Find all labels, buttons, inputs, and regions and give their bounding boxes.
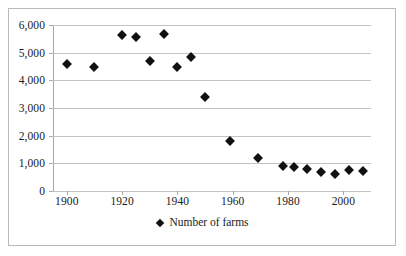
gridline [53,80,371,81]
data-point [90,62,100,72]
gridline [53,191,371,192]
y-tick-label-4000: 4,000 [19,75,45,87]
data-point [131,32,141,42]
y-tick-mark [49,53,53,54]
data-point [117,30,127,40]
y-tick-mark [49,25,53,26]
data-point [159,29,169,39]
chart-frame: 01,0002,0003,0004,0005,0006,000 19001920… [8,8,396,246]
y-tick-mark [49,163,53,164]
x-tick-label-1920: 1920 [110,196,133,208]
y-tick-mark [49,108,53,109]
gridline [53,25,371,26]
y-tick-label-3000: 3,000 [19,103,45,115]
gridline [53,53,371,54]
legend-diamond-icon [156,219,164,227]
chart-legend: Number of farms [9,217,397,229]
data-point [344,165,354,175]
y-tick-label-6000: 6,000 [19,20,45,32]
x-tick-label-1980: 1980 [276,196,299,208]
data-point [225,137,235,147]
y-tick-label-5000: 5,000 [19,48,45,60]
data-point [358,166,368,176]
data-point [62,59,72,69]
y-tick-label-0: 0 [39,186,45,198]
data-point [145,56,155,66]
data-point [200,92,210,102]
y-tick-mark [49,136,53,137]
y-tick-mark [49,191,53,192]
gridline [53,136,371,137]
data-point [172,62,182,72]
x-axis-tick-labels: 190019201940196019802000 [53,193,371,209]
data-point [316,168,326,178]
y-tick-label-2000: 2,000 [19,131,45,143]
legend-label-number-of-farms: Number of farms [169,217,248,229]
x-tick-label-1940: 1940 [166,196,189,208]
gridline [53,163,371,164]
y-axis-tick-labels: 01,0002,0003,0004,0005,0006,000 [1,25,45,191]
y-tick-label-1000: 1,000 [19,158,45,170]
plot-area [53,25,371,191]
data-point [302,164,312,174]
data-point [253,153,263,163]
data-point [330,169,340,179]
y-tick-mark [49,80,53,81]
gridline [53,108,371,109]
x-tick-label-2000: 2000 [332,196,355,208]
x-tick-label-1960: 1960 [221,196,244,208]
x-tick-label-1900: 1900 [55,196,78,208]
